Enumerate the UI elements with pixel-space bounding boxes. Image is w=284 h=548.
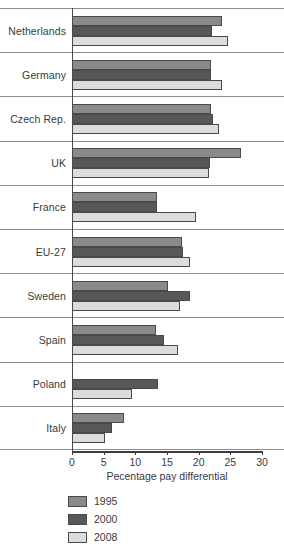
legend-item-2008: 2008 [68,528,218,546]
bar-group: Czech Rep. [0,96,284,140]
bar-stack [72,407,284,449]
x-tick-mark [104,451,105,455]
bar-stack [72,318,284,361]
legend-label: 2000 [94,513,117,525]
bar-germany-1995 [72,60,211,70]
x-tick-label: 10 [129,456,141,468]
legend-item-1995: 1995 [68,492,218,510]
x-tick-label: 25 [224,456,236,468]
pay-differential-bar-chart: NetherlandsGermanyCzech Rep.UKFranceEU-2… [0,0,284,548]
bar-group: UK [0,141,284,185]
bar-stack [72,186,284,229]
bar-sweden-1995 [72,281,168,291]
legend-swatch-icon [68,514,87,525]
bar-italy-2008 [72,433,105,443]
bar-france-2008 [72,212,196,222]
bar-group: Germany [0,52,284,96]
bar-group: France [0,185,284,229]
bar-sweden-2000 [72,291,190,301]
bar-group: Poland [0,362,284,406]
x-tick-label: 15 [161,456,173,468]
legend-label: 2008 [94,531,117,543]
x-tick-label: 20 [193,456,205,468]
bar-italy-1995 [72,413,124,423]
category-label-czech-rep: Czech Rep. [0,113,66,125]
bar-eu-27-1995 [72,237,182,247]
bar-netherlands-2000 [72,26,212,36]
bar-poland-2000 [72,379,158,389]
bar-eu-27-2008 [72,257,190,267]
bar-czech-rep-2000 [72,114,213,124]
category-label-italy: Italy [0,422,66,434]
bar-group: Sweden [0,273,284,317]
x-tick-mark [167,451,168,455]
bar-stack [72,97,284,140]
legend-item-2000: 2000 [68,510,218,528]
bar-poland-2008 [72,389,132,399]
x-axis-title: Pecentage pay differential [72,470,262,483]
bar-eu-27-2000 [72,247,183,257]
bar-france-1995 [72,192,157,202]
bar-group: Spain [0,317,284,361]
category-label-netherlands: Netherlands [0,25,66,37]
x-tick-mark [230,451,231,455]
zero-axis-line [72,8,73,452]
bar-group: Netherlands [0,8,284,52]
category-label-eu-27: EU-27 [0,246,66,258]
bar-stack [72,142,284,185]
bar-uk-1995 [72,148,241,158]
bar-stack [72,230,284,273]
bar-czech-rep-1995 [72,104,211,114]
bar-stack [72,53,284,96]
category-label-sweden: Sweden [0,290,66,302]
legend-swatch-icon [68,532,87,543]
category-label-france: France [0,201,66,213]
bar-netherlands-1995 [72,16,222,26]
category-label-spain: Spain [0,334,66,346]
category-label-germany: Germany [0,69,66,81]
bar-germany-2008 [72,80,222,90]
bar-france-2000 [72,202,157,212]
legend-label: 1995 [94,495,117,507]
x-tick-label: 5 [101,456,107,468]
x-tick-label: 30 [256,456,268,468]
x-tick-mark [262,451,263,455]
bar-sweden-2008 [72,301,180,311]
x-tick-mark [135,451,136,455]
bar-italy-2000 [72,423,112,433]
bar-czech-rep-2008 [72,124,219,134]
x-tick-mark [199,451,200,455]
bar-stack [72,274,284,317]
plot-area: NetherlandsGermanyCzech Rep.UKFranceEU-2… [0,8,284,450]
category-label-poland: Poland [0,378,66,390]
bar-germany-2000 [72,70,211,80]
bar-stack [72,9,284,52]
category-label-uk: UK [0,157,66,169]
bar-spain-2008 [72,345,178,355]
chart-legend: 199520002008 [68,492,218,546]
bar-uk-2008 [72,168,209,178]
bar-group: Italy [0,406,284,450]
bar-spain-1995 [72,325,156,335]
bar-spain-2000 [72,335,164,345]
x-tick-label: 0 [69,456,75,468]
x-tick-mark [72,451,73,455]
bar-netherlands-2008 [72,36,228,46]
legend-swatch-icon [68,496,87,507]
bar-group: EU-27 [0,229,284,273]
bar-uk-2000 [72,158,210,168]
bar-stack [72,363,284,406]
